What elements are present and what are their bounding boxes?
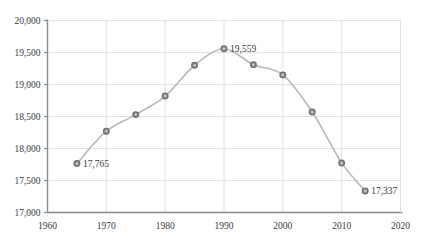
y-axis-tick-label: 18,000: [14, 144, 40, 154]
y-axis-tick-label: 18,500: [14, 112, 40, 122]
data-point-value-label: 17,765: [83, 159, 109, 169]
x-axis-tick-label: 2010: [332, 221, 351, 231]
x-axis-tick-label: 1970: [97, 221, 116, 231]
data-point-marker-center: [252, 64, 254, 66]
data-point-marker-center: [76, 163, 78, 165]
y-axis-tick-label: 17,000: [14, 208, 40, 218]
x-axis-tick-label: 2020: [391, 221, 410, 231]
data-point-marker-center: [223, 48, 225, 50]
line-chart: 17,00017,50018,00018,50019,00019,50020,0…: [0, 0, 424, 249]
data-point-marker-center: [194, 64, 196, 66]
data-point-marker-center: [311, 111, 313, 113]
chart-canvas: 17,00017,50018,00018,50019,00019,50020,0…: [0, 0, 424, 249]
data-point-marker-center: [282, 74, 284, 76]
data-point-marker-center: [135, 114, 137, 116]
y-axis-tick-label: 17,500: [14, 176, 40, 186]
y-axis-tick-label: 19,500: [14, 48, 40, 58]
data-point-marker-center: [105, 130, 107, 132]
data-point-marker-center: [364, 190, 366, 192]
data-point-value-label: 19,559: [230, 44, 256, 54]
chart-background: [0, 0, 424, 249]
y-axis-tick-label: 19,000: [14, 80, 40, 90]
x-axis-tick-label: 1990: [215, 221, 234, 231]
x-axis-tick-label: 1960: [38, 221, 57, 231]
x-axis-tick-label: 1980: [156, 221, 175, 231]
data-point-marker-center: [341, 162, 343, 164]
data-point-marker-center: [164, 95, 166, 97]
data-point-value-label: 17,337: [371, 186, 397, 196]
x-axis-tick-label: 2000: [273, 221, 292, 231]
y-axis-tick-label: 20,000: [14, 16, 40, 26]
